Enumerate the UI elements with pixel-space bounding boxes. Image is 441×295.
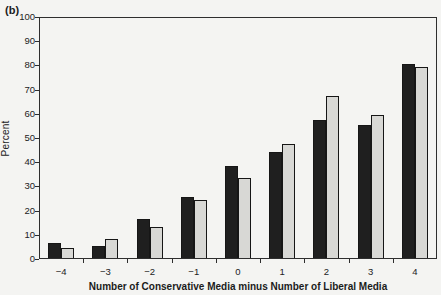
x-axis-title: Number of Conservative Media minus Numbe… xyxy=(39,281,437,292)
black-bar-−2 xyxy=(137,219,150,258)
x-tick-mark xyxy=(83,259,84,263)
y-tick-mark xyxy=(35,41,39,42)
y-tick-mark xyxy=(35,211,39,212)
y-tick-label: 80 xyxy=(5,60,35,70)
y-tick-mark xyxy=(35,259,39,260)
y-tick-mark xyxy=(35,114,39,115)
x-tick-label: −3 xyxy=(89,267,121,277)
y-tick-label: 90 xyxy=(5,36,35,46)
y-tick-label: 50 xyxy=(5,133,35,143)
x-tick-label: −1 xyxy=(178,267,210,277)
black-bar-−1 xyxy=(181,197,194,258)
black-bar-−3 xyxy=(92,246,105,258)
x-tick-label: −4 xyxy=(45,267,77,277)
y-tick-label: 100 xyxy=(5,12,35,22)
gray-bar-−2 xyxy=(150,227,163,258)
black-bar-4 xyxy=(402,64,415,258)
gray-bar-4 xyxy=(415,67,428,258)
gray-bar-0 xyxy=(238,178,251,258)
black-bar-1 xyxy=(269,152,282,258)
y-tick-label: 0 xyxy=(5,254,35,264)
y-tick-label: 70 xyxy=(5,85,35,95)
y-tick-mark xyxy=(35,186,39,187)
y-tick-label: 40 xyxy=(5,157,35,167)
x-tick-mark xyxy=(216,259,217,263)
x-tick-mark xyxy=(260,259,261,263)
gray-bar-−4 xyxy=(61,248,74,258)
y-tick-mark xyxy=(35,65,39,66)
y-tick-mark xyxy=(35,90,39,91)
x-tick-mark xyxy=(172,259,173,263)
x-tick-label: 2 xyxy=(310,267,342,277)
x-tick-label: 4 xyxy=(399,267,431,277)
black-bar-−4 xyxy=(48,243,61,258)
black-bar-2 xyxy=(313,120,326,258)
x-tick-label: 1 xyxy=(266,267,298,277)
plot-area xyxy=(39,17,437,259)
x-tick-label: −2 xyxy=(134,267,166,277)
x-tick-mark xyxy=(393,259,394,263)
figure-panel-b: (b) Percent 0102030405060708090100−4−3−2… xyxy=(0,0,441,295)
gray-bar-2 xyxy=(326,96,339,258)
gray-bar-−1 xyxy=(194,200,207,258)
y-tick-mark xyxy=(35,235,39,236)
y-tick-label: 20 xyxy=(5,206,35,216)
y-tick-mark xyxy=(35,162,39,163)
x-tick-mark xyxy=(349,259,350,263)
gray-bar-−3 xyxy=(105,239,118,258)
y-tick-label: 30 xyxy=(5,181,35,191)
gray-bar-1 xyxy=(282,144,295,258)
gray-bar-3 xyxy=(371,115,384,258)
x-tick-label: 0 xyxy=(222,267,254,277)
x-tick-label: 3 xyxy=(355,267,387,277)
y-tick-mark xyxy=(35,138,39,139)
y-tick-label: 10 xyxy=(5,230,35,240)
y-tick-label: 60 xyxy=(5,109,35,119)
x-tick-mark xyxy=(304,259,305,263)
black-bar-0 xyxy=(225,166,238,258)
black-bar-3 xyxy=(358,125,371,258)
x-tick-mark xyxy=(127,259,128,263)
y-tick-mark xyxy=(35,17,39,18)
